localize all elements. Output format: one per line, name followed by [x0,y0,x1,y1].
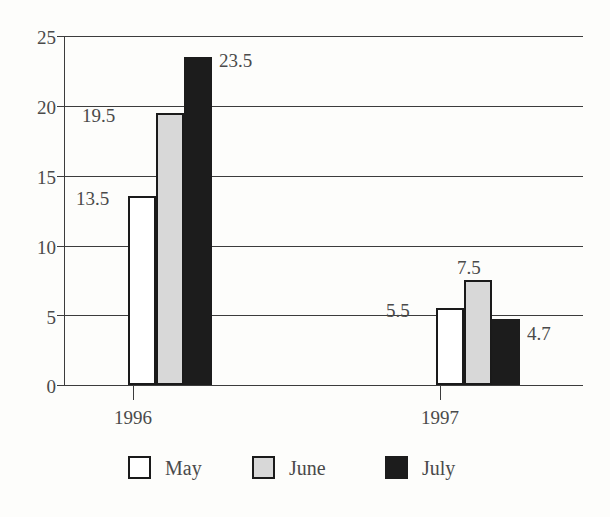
x-axis-label-1996: 1996 [114,408,152,427]
bar-1996-june[interactable] [156,113,184,385]
y-axis-label-10: 10 [37,238,56,257]
legend-swatch-may-icon [128,456,151,479]
y-tick-0 [57,385,64,386]
bar-1997-june[interactable] [464,280,492,385]
y-tick-15 [57,176,64,177]
legend-item-june[interactable]: June [252,456,326,479]
data-label-1996-june: 19.5 [82,106,115,125]
y-tick-20 [57,106,64,107]
legend-label-july: July [422,458,455,478]
bar-1996-july[interactable] [184,57,212,385]
bar-1997-may[interactable] [436,308,464,385]
y-axis-label-5: 5 [47,308,57,327]
data-label-1997-may: 5.5 [386,301,410,320]
data-label-1996-july: 23.5 [219,51,252,70]
y-axis-label-25: 25 [37,28,56,47]
legend-label-june: June [289,458,326,478]
x-axis-line [64,385,583,386]
bar-1997-july[interactable] [492,319,520,385]
gridline-25 [64,36,583,37]
chart-page: 25 20 15 10 5 0 [0,0,610,517]
y-tick-5 [57,315,64,316]
legend-swatch-june-icon [252,456,275,479]
legend-swatch-july-icon [385,456,408,479]
data-label-1997-july: 4.7 [527,324,551,343]
gridline-15 [64,176,583,177]
y-axis-label-15: 15 [37,168,56,187]
y-tick-10 [57,246,64,247]
y-axis-label-20: 20 [37,98,56,117]
gridline-20 [64,106,583,107]
legend-item-july[interactable]: July [385,456,455,479]
y-axis-line [64,36,65,386]
x-axis-label-1997: 1997 [421,408,459,427]
chart-legend: May June July [0,452,610,492]
bar-1996-may[interactable] [128,196,156,385]
legend-label-may: May [165,458,202,478]
plot-area: 13.5 19.5 23.5 5.5 7.5 4.7 1996 1997 [64,36,583,385]
cut-off-title-remnant [0,0,610,9]
data-label-1997-june: 7.5 [457,258,481,277]
y-axis-labels: 25 20 15 10 5 0 [18,36,56,386]
x-tick-1997 [440,385,441,400]
x-tick-1996 [133,385,134,400]
legend-item-may[interactable]: May [128,456,202,479]
data-label-1996-may: 13.5 [76,189,109,208]
y-tick-25 [57,36,64,37]
y-axis-label-0: 0 [47,377,57,396]
